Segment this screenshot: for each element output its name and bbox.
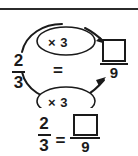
bottom-left-fraction: 2 3 <box>38 115 51 155</box>
multiplier-label-bottom: × 3 <box>48 96 68 109</box>
right-fraction-denominator: 9 <box>100 65 128 82</box>
bottom-left-fraction-numerator: 2 <box>38 115 51 133</box>
right-fraction-numerator-answer-box[interactable] <box>102 39 126 62</box>
center-equals-sign: = <box>53 62 63 79</box>
bottom-right-fraction: 9 <box>70 114 100 156</box>
bottom-equals-sign: = <box>56 132 66 155</box>
bottom-right-numerator-answer-box[interactable] <box>73 114 98 136</box>
left-fraction-denominator: 3 <box>12 74 25 92</box>
bottom-equation: 2 3 = 9 <box>0 116 138 155</box>
bottom-left-fraction-denominator: 3 <box>38 137 51 155</box>
bottom-right-fraction-denominator: 9 <box>70 139 100 156</box>
right-fraction: 9 <box>100 39 128 82</box>
multiplier-label-top: × 3 <box>48 36 68 49</box>
left-fraction-numerator: 2 <box>12 52 25 70</box>
worksheet-figure: 2 3 = × 3 × 3 9 2 3 = 9 <box>0 0 138 155</box>
left-fraction: 2 3 <box>12 52 25 92</box>
equivalent-fraction-diagram: 2 3 = × 3 × 3 9 <box>0 10 138 108</box>
